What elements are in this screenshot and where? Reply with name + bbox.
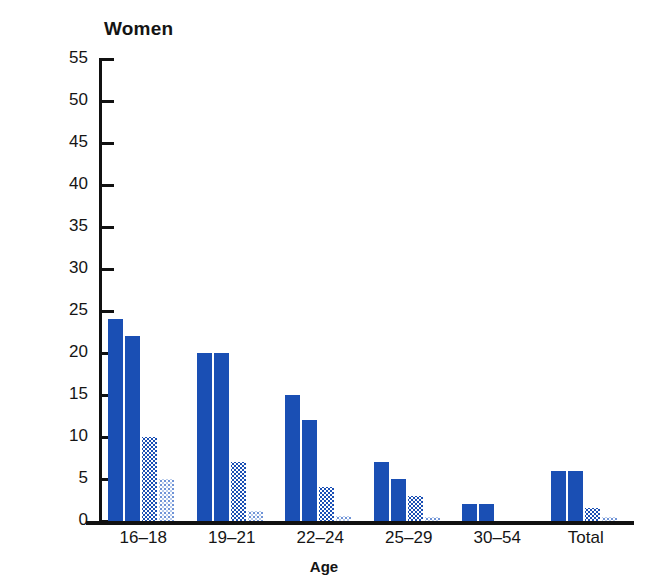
bar	[319, 487, 334, 521]
chart-title: Women	[104, 18, 173, 40]
bar	[197, 353, 212, 521]
y-tick-label: 15	[42, 384, 88, 404]
bar	[568, 471, 583, 521]
bar	[231, 462, 246, 521]
bar	[602, 517, 617, 521]
bar-group	[108, 59, 174, 521]
bar	[374, 462, 389, 521]
bar	[391, 479, 406, 521]
chart-figure: Women Percentage 0510152025303540455055 …	[0, 0, 648, 585]
x-axis-line	[86, 521, 634, 525]
bar-group	[551, 59, 617, 521]
bar-group	[462, 59, 528, 521]
bar	[462, 504, 477, 521]
x-axis-label: Age	[0, 558, 648, 575]
bar	[214, 353, 229, 521]
y-tick-label: 50	[42, 90, 88, 110]
y-tick-label: 35	[42, 216, 88, 236]
y-tick-label: 45	[42, 132, 88, 152]
bar	[585, 508, 600, 521]
bar	[125, 336, 140, 521]
y-tick-label: 30	[42, 258, 88, 278]
y-tick-label: 0	[42, 510, 88, 530]
y-tick-label: 5	[42, 468, 88, 488]
bar	[159, 479, 174, 521]
bar	[302, 420, 317, 521]
y-tick-label: 10	[42, 426, 88, 446]
y-tick-label: 40	[42, 174, 88, 194]
bar	[551, 471, 566, 521]
bar-group	[197, 59, 263, 521]
bar	[248, 511, 263, 521]
y-tick-label: 25	[42, 300, 88, 320]
plot-area	[99, 59, 630, 521]
y-tick-label: 20	[42, 342, 88, 362]
bar	[336, 516, 351, 521]
x-tick-label: Total	[532, 528, 641, 548]
bar-group	[374, 59, 440, 521]
bar	[408, 496, 423, 521]
bar	[285, 395, 300, 521]
y-tick-label: 55	[42, 48, 88, 68]
bar	[142, 437, 157, 521]
bar	[425, 517, 440, 521]
bar	[108, 319, 123, 521]
bar	[479, 504, 494, 521]
bar-group	[285, 59, 351, 521]
